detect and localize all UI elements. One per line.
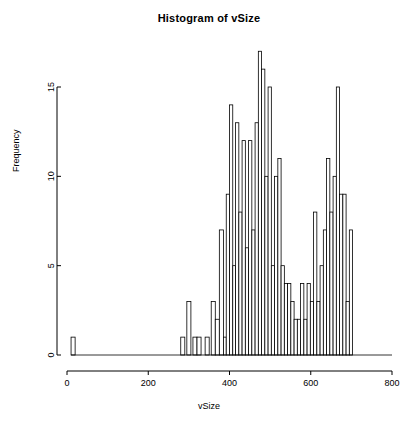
y-axis-tick-label: 0 bbox=[46, 352, 56, 357]
plot-canvas: 051015 0200400600800 bbox=[0, 0, 418, 431]
histogram-bar bbox=[327, 158, 330, 355]
histogram-bar bbox=[211, 301, 215, 355]
x-axis-tick-label: 200 bbox=[141, 378, 156, 388]
histogram-bars bbox=[71, 51, 392, 355]
histogram-bar bbox=[265, 176, 268, 355]
histogram-bar bbox=[233, 266, 236, 355]
y-axis-tick-label: 10 bbox=[46, 171, 56, 181]
histogram-bar bbox=[262, 69, 265, 355]
x-axis: 0200400600800 bbox=[64, 371, 399, 388]
histogram-bar bbox=[271, 266, 274, 355]
histogram-bar bbox=[230, 105, 233, 355]
y-axis: 051015 bbox=[46, 82, 61, 358]
histogram-bar bbox=[187, 301, 191, 355]
y-axis-tick-label: 5 bbox=[46, 263, 56, 268]
histogram-bar bbox=[330, 212, 333, 355]
x-axis-tick-label: 0 bbox=[64, 378, 69, 388]
x-axis-tick-label: 800 bbox=[384, 378, 399, 388]
histogram-bar bbox=[268, 87, 271, 355]
histogram-bar bbox=[219, 230, 223, 355]
histogram-bar bbox=[226, 194, 229, 355]
y-axis-tick-label: 15 bbox=[46, 82, 56, 92]
histogram-bar bbox=[258, 51, 261, 355]
histogram-bar bbox=[205, 337, 209, 355]
histogram-bar bbox=[340, 194, 343, 355]
histogram-bar bbox=[301, 284, 304, 355]
histogram-bar bbox=[197, 337, 201, 355]
histogram-bar bbox=[349, 230, 352, 355]
histogram-bar bbox=[294, 319, 297, 355]
histogram-bar bbox=[71, 337, 75, 355]
x-axis-tick-label: 400 bbox=[222, 378, 237, 388]
histogram-bar bbox=[239, 212, 242, 355]
histogram-bar bbox=[275, 176, 278, 355]
histogram-bar bbox=[333, 176, 336, 355]
histogram-bar bbox=[223, 337, 226, 355]
histogram-bar bbox=[304, 319, 307, 355]
histogram-bar bbox=[249, 141, 252, 355]
histogram-bar bbox=[343, 194, 346, 355]
histogram-bar bbox=[314, 212, 317, 355]
histogram-bar bbox=[317, 301, 320, 355]
histogram-plot: Histogram of vSize Frequency vSize 05101… bbox=[0, 0, 418, 431]
histogram-bar bbox=[245, 248, 248, 355]
histogram-bar bbox=[252, 230, 255, 355]
histogram-bar bbox=[181, 337, 185, 355]
histogram-bar bbox=[323, 230, 326, 355]
histogram-bar bbox=[297, 319, 300, 355]
histogram-bar bbox=[346, 301, 349, 355]
histogram-bar bbox=[310, 301, 313, 355]
histogram-bar bbox=[291, 301, 294, 355]
histogram-bar bbox=[320, 266, 323, 355]
histogram-bar bbox=[242, 141, 245, 355]
histogram-bar bbox=[215, 319, 219, 355]
histogram-bar bbox=[336, 87, 339, 355]
histogram-bar bbox=[278, 158, 281, 355]
histogram-bar bbox=[307, 284, 310, 355]
histogram-bar bbox=[255, 123, 258, 355]
x-axis-tick-label: 600 bbox=[303, 378, 318, 388]
histogram-bar bbox=[284, 284, 287, 355]
histogram-bar bbox=[236, 123, 239, 355]
histogram-bar bbox=[288, 284, 291, 355]
histogram-bar bbox=[281, 266, 284, 355]
histogram-bar bbox=[193, 337, 197, 355]
